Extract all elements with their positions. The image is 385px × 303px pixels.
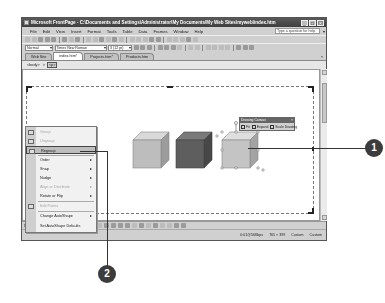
- menu-view[interactable]: View: [56, 29, 65, 34]
- italic-icon[interactable]: [140, 45, 145, 50]
- justify-icon[interactable]: [177, 45, 182, 50]
- save-icon[interactable]: [38, 37, 43, 42]
- shadow-style-icon[interactable]: [174, 223, 179, 228]
- menu-item-nudge[interactable]: Nudge ▸: [26, 174, 96, 182]
- menu-item-snap[interactable]: Snap ▸: [26, 165, 96, 173]
- font-size-dropdown[interactable]: 3 (12 pt): [108, 45, 132, 51]
- fit-button[interactable]: Fit: [241, 125, 250, 129]
- menu-item-group[interactable]: Group: [26, 128, 96, 136]
- align-right-icon[interactable]: [171, 45, 176, 50]
- menu-tools[interactable]: Tools: [107, 29, 117, 34]
- scroll-down-arrow-icon[interactable]: [322, 215, 327, 220]
- picture-icon[interactable]: [125, 223, 130, 228]
- new-page-icon[interactable]: [25, 37, 30, 42]
- menu-file[interactable]: File: [30, 29, 37, 34]
- 3d-style-icon[interactable]: [181, 223, 186, 228]
- menu-item-order[interactable]: Order ▸: [26, 156, 96, 164]
- scrollbar-thumb[interactable]: [322, 83, 327, 123]
- drawing-canvas-toolbar-title[interactable]: Drawing Canvas ×: [240, 118, 294, 123]
- menu-item-align-distribute[interactable]: Align or Distribute ▸: [26, 183, 96, 191]
- scroll-up-arrow-icon[interactable]: [322, 70, 327, 75]
- text-box-icon[interactable]: [97, 223, 102, 228]
- open-icon[interactable]: [32, 37, 37, 42]
- increase-indent-icon[interactable]: [225, 45, 230, 50]
- menu-format[interactable]: Format: [87, 29, 100, 34]
- tag-body[interactable]: <body>: [26, 63, 41, 67]
- help-icon[interactable]: [193, 37, 198, 42]
- spelling-icon[interactable]: [75, 37, 80, 42]
- canvas-crop-handle[interactable]: [26, 86, 32, 92]
- show-formatting-icon[interactable]: [186, 37, 191, 42]
- menu-window[interactable]: Window: [174, 29, 189, 34]
- close-button[interactable]: ×: [317, 20, 324, 26]
- menu-help[interactable]: Help: [195, 29, 204, 34]
- style-dropdown[interactable]: Normal: [25, 45, 53, 51]
- arrow-style-icon[interactable]: [167, 223, 172, 228]
- scale-drawing-button[interactable]: Scale Drawing: [270, 125, 297, 129]
- decrease-indent-icon[interactable]: [219, 45, 224, 50]
- redo-icon[interactable]: [119, 37, 124, 42]
- help-question-input[interactable]: Type a question for help: [275, 28, 320, 34]
- compatibility-mode-2[interactable]: Custom: [310, 233, 322, 237]
- drawing-icon[interactable]: [156, 37, 161, 42]
- copy-icon[interactable]: [93, 37, 98, 42]
- menu-item-set-autoshape-defaults[interactable]: Set AutoShape Defaults: [26, 222, 96, 230]
- canvas-crop-handle[interactable]: [308, 86, 314, 92]
- maximize-button[interactable]: □: [309, 20, 316, 26]
- format-painter-icon[interactable]: [106, 37, 111, 42]
- menu-table[interactable]: Table: [123, 29, 133, 34]
- decrease-font-icon[interactable]: [195, 45, 200, 50]
- drawing-canvas-close-icon[interactable]: ×: [291, 118, 293, 123]
- close-tab-icon[interactable]: ×: [321, 54, 323, 59]
- menu-item-edit-points[interactable]: Edit Points: [26, 202, 96, 210]
- diagram-icon[interactable]: [111, 223, 116, 228]
- insert-picture-icon[interactable]: [149, 37, 154, 42]
- tab-index[interactable]: index.htm*: [53, 52, 83, 60]
- insert-table-icon[interactable]: [136, 37, 141, 42]
- minimize-button[interactable]: _: [301, 20, 308, 26]
- tab-projects[interactable]: Projects.htm*: [84, 53, 119, 60]
- numbering-icon[interactable]: [206, 45, 211, 50]
- tab-web-site[interactable]: Web Site: [25, 53, 52, 60]
- cube-shape-light[interactable]: [131, 130, 171, 170]
- dash-style-icon[interactable]: [160, 223, 165, 228]
- font-color-draw-icon[interactable]: [146, 223, 151, 228]
- insert-component-icon[interactable]: [130, 37, 135, 42]
- highlight-color-icon[interactable]: [243, 45, 248, 50]
- menu-insert[interactable]: Insert: [71, 29, 81, 34]
- canvas-crop-handle[interactable]: [308, 208, 314, 214]
- line-style-icon[interactable]: [153, 223, 158, 228]
- print-icon[interactable]: [62, 37, 67, 42]
- borders-icon[interactable]: [236, 45, 241, 50]
- menu-item-change-autoshape[interactable]: Change AutoShape ▸: [26, 212, 96, 220]
- vertical-scrollbar[interactable]: [320, 69, 327, 221]
- cut-icon[interactable]: [86, 37, 91, 42]
- menu-item-ungroup[interactable]: Ungroup: [26, 137, 96, 145]
- publish-icon[interactable]: [51, 37, 56, 42]
- preview-icon[interactable]: [69, 37, 74, 42]
- page-dimensions[interactable]: 765 × 399: [269, 233, 285, 237]
- expand-button[interactable]: Expand: [252, 125, 269, 129]
- compatibility-mode-1[interactable]: Custom: [291, 233, 303, 237]
- insert-layer-icon[interactable]: [143, 37, 148, 42]
- tab-products[interactable]: Products.htm: [120, 53, 154, 60]
- hyperlink-icon[interactable]: [167, 37, 172, 42]
- bullets-icon[interactable]: [212, 45, 217, 50]
- search-icon[interactable]: [45, 37, 50, 42]
- cube-shape-dark[interactable]: [174, 130, 214, 170]
- menu-frames[interactable]: Frames: [153, 29, 167, 34]
- refresh-icon[interactable]: [173, 37, 178, 42]
- underline-icon[interactable]: [147, 45, 152, 50]
- fill-color-icon[interactable]: [132, 223, 137, 228]
- bold-icon[interactable]: [134, 45, 139, 50]
- font-color-icon[interactable]: [249, 45, 254, 50]
- align-left-icon[interactable]: [158, 45, 163, 50]
- stop-icon[interactable]: [180, 37, 185, 42]
- undo-icon[interactable]: [112, 37, 117, 42]
- align-center-icon[interactable]: [164, 45, 169, 50]
- menu-edit[interactable]: Edit: [43, 29, 50, 34]
- menu-data[interactable]: Data: [139, 29, 148, 34]
- paste-icon[interactable]: [99, 37, 104, 42]
- canvas-crop-handle[interactable]: [167, 86, 173, 92]
- menu-item-rotate-flip[interactable]: Rotate or Flip ▸: [26, 192, 96, 200]
